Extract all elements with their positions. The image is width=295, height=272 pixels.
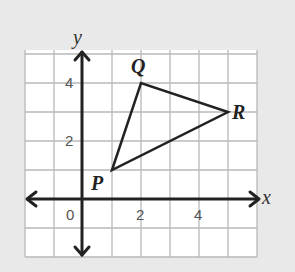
x-axis-label: x — [261, 186, 271, 208]
x-tick-2: 2 — [136, 206, 144, 223]
point-r-label: R — [231, 101, 245, 123]
y-tick-2: 2 — [65, 132, 73, 149]
point-q-label: Q — [131, 55, 145, 77]
origin-label: 0 — [66, 206, 74, 223]
y-tick-4: 4 — [65, 74, 73, 91]
point-p-label: P — [90, 172, 104, 194]
x-tick-4: 4 — [194, 206, 202, 223]
coordinate-plane: 0 2 4 2 4 x y P Q R — [0, 0, 295, 272]
y-axis-label: y — [71, 26, 82, 49]
